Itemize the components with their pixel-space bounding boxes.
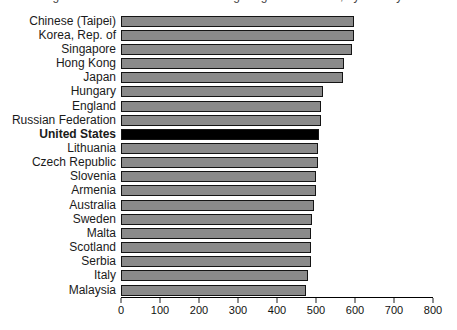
bar-track: [121, 156, 433, 170]
bar-row: Czech Republic: [0, 156, 457, 170]
bar: [121, 285, 306, 296]
x-axis-tick-label: 400: [268, 304, 286, 316]
bar-track: [121, 56, 433, 70]
bar-track: [121, 71, 433, 85]
x-axis-tick-label: 200: [190, 304, 208, 316]
x-axis-tick: [121, 298, 122, 303]
category-label: Hungary: [0, 85, 121, 98]
bar: [121, 101, 321, 112]
bar-track: [121, 127, 433, 141]
bar-row: Hong Kong: [0, 56, 457, 70]
bar-chart: Average mathematics scale scores of eigh…: [0, 0, 457, 330]
bar-row: Malta: [0, 226, 457, 240]
bar: [121, 143, 318, 154]
x-axis-tick: [433, 298, 434, 303]
bar-row: Armenia: [0, 184, 457, 198]
x-axis-tick: [160, 298, 161, 303]
bar-row: Russian Federation: [0, 113, 457, 127]
x-axis-tick-label: 100: [151, 304, 169, 316]
bar-track: [121, 198, 433, 212]
category-label: Armenia: [0, 184, 121, 197]
bar: [121, 214, 312, 225]
x-axis-tick: [238, 298, 239, 303]
category-label: Serbia: [0, 255, 121, 268]
bar-track: [121, 42, 433, 56]
bar-track: [121, 113, 433, 127]
bar-row: United States: [0, 127, 457, 141]
bar-track: [121, 28, 433, 42]
x-axis: 0100200300400500600700800: [121, 297, 433, 322]
category-label: Korea, Rep. of: [0, 29, 121, 42]
bar: [121, 86, 323, 97]
x-axis-tick: [199, 298, 200, 303]
category-label: Malta: [0, 227, 121, 240]
x-axis-tick-label: 600: [346, 304, 364, 316]
category-label: Sweden: [0, 213, 121, 226]
x-axis-tick-label: 500: [307, 304, 325, 316]
bar-track: [121, 184, 433, 198]
x-axis-tick: [355, 298, 356, 303]
bar-row: Japan: [0, 71, 457, 85]
bar: [121, 200, 314, 211]
bar-row: Australia: [0, 198, 457, 212]
category-label: Lithuania: [0, 142, 121, 155]
bar: [121, 16, 354, 27]
category-label: United States: [0, 128, 121, 141]
bar: [121, 185, 316, 196]
bar-row: Korea, Rep. of: [0, 28, 457, 42]
bar: [121, 157, 318, 168]
cropped-title: Average mathematics scale scores of eigh…: [0, 0, 457, 4]
bar-row: Slovenia: [0, 170, 457, 184]
x-axis-tick-label: 700: [385, 304, 403, 316]
bar-row: England: [0, 99, 457, 113]
bar-track: [121, 226, 433, 240]
bar: [121, 242, 311, 253]
category-label: Hong Kong: [0, 57, 121, 70]
x-axis-tick-label: 0: [118, 304, 124, 316]
category-label: Chinese (Taipei): [0, 15, 121, 28]
bar-row: Singapore: [0, 42, 457, 56]
cropped-title-text: Average mathematics scale scores of eigh…: [0, 0, 457, 3]
bar: [121, 44, 352, 55]
bar-rows: Chinese (Taipei)Korea, Rep. ofSingaporeH…: [0, 14, 457, 297]
bar-row: Malaysia: [0, 283, 457, 297]
bar: [121, 30, 354, 41]
bar: [121, 72, 343, 83]
category-label: Scotland: [0, 241, 121, 254]
bar-row: Lithuania: [0, 141, 457, 155]
bar-track: [121, 283, 433, 297]
bar: [121, 228, 311, 239]
bar: [121, 129, 319, 140]
bar-track: [121, 14, 433, 28]
bar-track: [121, 212, 433, 226]
bar-track: [121, 170, 433, 184]
bar: [121, 171, 316, 182]
category-label: Russian Federation: [0, 114, 121, 127]
bar-row: Italy: [0, 269, 457, 283]
category-label: Czech Republic: [0, 156, 121, 169]
category-label: Singapore: [0, 43, 121, 56]
category-label: Japan: [0, 71, 121, 84]
category-label: England: [0, 100, 121, 113]
bar-track: [121, 241, 433, 255]
x-axis-tick-label: 300: [229, 304, 247, 316]
bar-row: Hungary: [0, 85, 457, 99]
bar: [121, 58, 344, 69]
category-label: Italy: [0, 269, 121, 282]
bar-row: Sweden: [0, 212, 457, 226]
category-label: Malaysia: [0, 284, 121, 297]
bar-row: Serbia: [0, 255, 457, 269]
bar-track: [121, 269, 433, 283]
bar: [121, 115, 321, 126]
bar-track: [121, 85, 433, 99]
bar-track: [121, 141, 433, 155]
x-axis-tick: [316, 298, 317, 303]
x-axis-tick-label: 800: [424, 304, 442, 316]
bar-row: Scotland: [0, 241, 457, 255]
bar: [121, 256, 311, 267]
bar-track: [121, 255, 433, 269]
category-label: Slovenia: [0, 170, 121, 183]
bar-row: Chinese (Taipei): [0, 14, 457, 28]
bar: [121, 270, 308, 281]
bar-track: [121, 99, 433, 113]
